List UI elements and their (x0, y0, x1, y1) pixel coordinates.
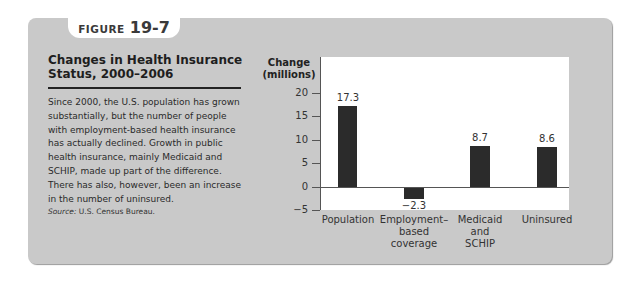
value-label: 8.6 (527, 134, 567, 144)
y-tick-label: 5 (280, 158, 308, 168)
figure-title: Changes in Health Insurance Status, 2000… (48, 53, 248, 81)
title-divider (48, 87, 241, 89)
value-label: 17.3 (328, 93, 368, 103)
bar-medicaid-schip (470, 146, 490, 187)
value-label: −2.3 (394, 201, 434, 211)
y-tick-label: 10 (280, 135, 308, 145)
bar-population (338, 106, 357, 187)
figure-label: FIGURE (78, 23, 124, 35)
bar-uninsured (537, 147, 557, 187)
y-tick-label: −5 (280, 205, 308, 215)
y-tick-5 (312, 163, 320, 164)
source-label: Source: (48, 207, 76, 216)
y-axis-label: Change (millions) (260, 57, 318, 81)
y-tick-label: 20 (280, 88, 308, 98)
title-line-1: Changes in Health Insurance (48, 53, 248, 67)
figure-number: 19-7 (130, 18, 170, 37)
y-tick-20 (312, 93, 320, 94)
figure-source: Source: U.S. Census Bureau. (48, 207, 155, 216)
y-tick-10 (312, 140, 320, 141)
y-tick-0 (312, 187, 320, 188)
y-tick-label: 15 (280, 111, 308, 121)
y-tick-neg5 (312, 210, 320, 211)
title-line-2: Status, 2000–2006 (48, 67, 248, 81)
x-label-uninsured: Uninsured (507, 214, 587, 226)
y-axis-label-line-2: (millions) (260, 69, 318, 81)
source-text: U.S. Census Bureau. (76, 207, 155, 216)
y-tick-15 (312, 116, 320, 117)
y-tick-label: 0 (280, 182, 308, 192)
zero-line (320, 187, 569, 188)
figure-description: Since 2000, the U.S. population has grow… (48, 96, 248, 206)
value-label: 8.7 (460, 133, 500, 143)
figure-tab: FIGURE 19-7 (68, 18, 180, 38)
y-axis-label-line-1: Change (260, 57, 318, 69)
bar-employment-based-coverage (404, 188, 424, 199)
